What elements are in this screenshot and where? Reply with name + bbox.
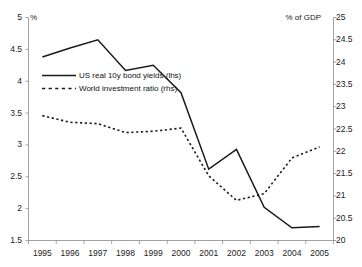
- x-axis-tick-2000: 2000: [172, 248, 191, 258]
- x-axis-tick-1997: 1997: [88, 248, 107, 258]
- legend-item-investment-ratio: World investment ratio (rhs): [79, 84, 177, 93]
- x-axis-tick-1999: 1999: [144, 248, 163, 258]
- x-axis-tick-2003: 2003: [255, 248, 274, 258]
- x-axis-tick-2005: 2005: [310, 248, 329, 258]
- x-axis-tick-1996: 1996: [61, 248, 80, 258]
- x-axis-tick-1995: 1995: [33, 248, 52, 258]
- x-axis-tick-2004: 2004: [282, 248, 301, 258]
- x-axis-tick-2001: 2001: [199, 248, 218, 258]
- legend-item-bond-yields: US real 10y bond yields (lhs): [79, 71, 181, 80]
- x-axis-tick-1998: 1998: [116, 248, 135, 258]
- x-axis-tick-labels: 1995199619971998199920002001200220032004…: [0, 0, 362, 267]
- chart-container: % % of GDP 1.522.533.544.55 2020.52121.5…: [0, 0, 362, 267]
- x-axis-tick-2002: 2002: [227, 248, 246, 258]
